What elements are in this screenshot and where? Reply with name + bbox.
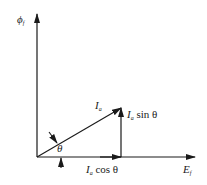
phi-axis-label: ϕf: [17, 14, 24, 26]
phasor-diagram: [0, 0, 207, 185]
ia-sin-label: Ia sin θ: [127, 109, 157, 121]
angle-arrow-top-icon: [49, 132, 57, 143]
ia-cos-label: Ia cos θ: [86, 164, 118, 176]
e-axis-label: Ef: [183, 164, 191, 176]
theta-label: θ: [57, 143, 62, 154]
ia-label: Ia: [95, 100, 102, 112]
